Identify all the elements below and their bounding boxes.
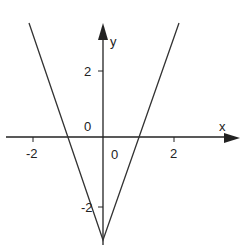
y-tick-label-neg2: -2: [81, 200, 93, 215]
y-axis-arrow-icon: [98, 23, 108, 40]
x-tick-label-2: 2: [170, 146, 177, 161]
y-tick-label-2: 2: [84, 64, 91, 79]
function-graph: y x 2 -2 -2 2 0 0: [0, 0, 241, 246]
x-axis-label: x: [219, 119, 226, 134]
origin-label-upper: 0: [84, 119, 91, 134]
x-tick-label-neg2: -2: [26, 146, 38, 161]
x-axis-arrow-icon: [224, 133, 240, 143]
y-axis-label: y: [110, 34, 117, 49]
function-curve: [29, 23, 179, 240]
origin-label-lower: 0: [111, 147, 118, 162]
